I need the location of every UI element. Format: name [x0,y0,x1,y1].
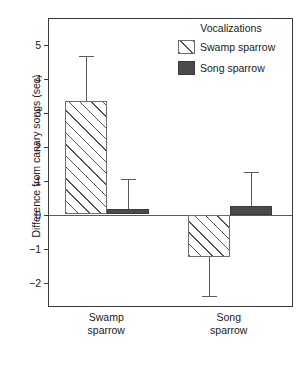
y-axis-tick: 2 [44,147,49,148]
error-bar-cap [79,56,94,57]
x-axis-tick-label-line: Song [174,311,284,324]
y-axis-tick-label: −1 [29,242,41,256]
y-axis-tick-label: 5 [35,38,41,52]
y-axis-tick-label: 4 [35,72,41,86]
bar [230,206,272,215]
error-bar-cap [244,172,259,173]
error-bar-cap [121,179,136,180]
y-axis-tick: 3 [44,113,49,114]
legend: Vocalizations Swamp sparrow Song sparrow [178,22,290,81]
x-axis-tick-label: Songsparrow [174,311,284,336]
error-bar-cap [202,296,217,297]
error-bar [209,257,210,296]
y-axis-tick: 4 [44,79,49,80]
bar [188,215,230,258]
y-axis-tick-label: 2 [35,140,41,154]
bar [65,101,107,214]
y-axis-tick: 0 [44,215,49,216]
y-axis-tick: −1 [44,249,49,250]
y-axis-tick-label: 3 [35,106,41,120]
legend-item-swamp-sparrow: Swamp sparrow [178,39,290,54]
x-axis-tick-label-line: sparrow [51,324,161,337]
legend-label-swamp-sparrow: Swamp sparrow [200,41,275,53]
error-bar [251,172,252,206]
y-axis-tick: 1 [44,181,49,182]
y-axis-tick: −2 [44,283,49,284]
legend-item-song-sparrow: Song sparrow [178,60,290,75]
y-axis-tick: 5 [44,45,49,46]
y-axis-tick-label: 0 [35,208,41,222]
x-axis-tick-label-line: Swamp [51,311,161,324]
y-axis-tick-label: 1 [35,174,41,188]
bar [107,209,149,215]
x-axis-tick-label: Swampsparrow [51,311,161,336]
legend-title: Vocalizations [178,22,290,34]
error-bar [128,179,129,209]
zero-baseline [49,215,292,216]
legend-swatch-solid-icon [178,61,195,75]
legend-label-song-sparrow: Song sparrow [200,62,265,74]
bar-chart-figure: Difference from canary songs (sec) 54321… [0,0,304,370]
error-bar [86,56,87,101]
x-axis-tick-label-line: sparrow [174,324,284,337]
y-axis-tick-label: −2 [29,276,41,290]
legend-swatch-hatched-icon [178,40,195,54]
